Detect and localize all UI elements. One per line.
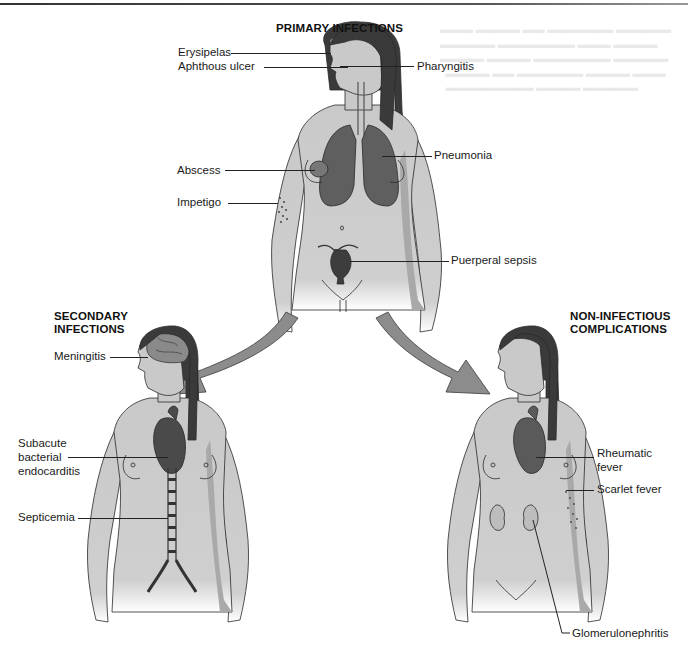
leader-glomerulonephritis xyxy=(0,0,688,648)
